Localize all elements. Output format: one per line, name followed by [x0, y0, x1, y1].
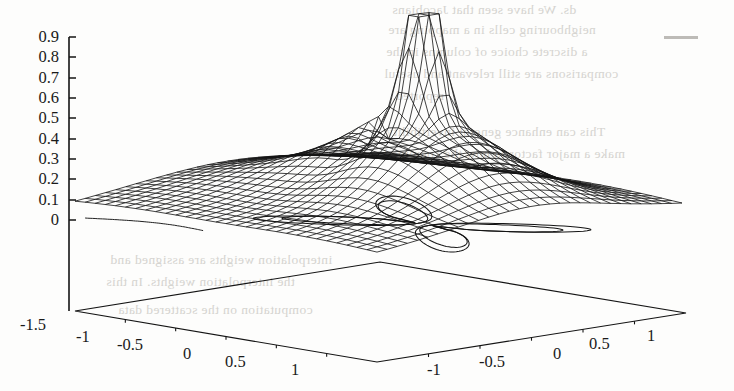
z-tick-label: 0.3	[13, 149, 59, 169]
y-tick-label: 0	[553, 344, 561, 364]
x-tick-label: 0	[183, 344, 191, 364]
z-tick-label: 0.2	[13, 169, 59, 189]
z-tick-label: 0.6	[13, 88, 59, 108]
y-tick-label: -1	[427, 360, 441, 380]
surface-mesh	[75, 13, 682, 253]
z-tick-label: 0.5	[13, 108, 59, 128]
z-tick-label: 0.1	[13, 190, 59, 210]
z-tick-label: 0.7	[13, 68, 59, 88]
x-tick-label: -1	[76, 327, 90, 347]
surface-plot-figure	[0, 0, 734, 391]
z-tick-label: 0	[13, 210, 59, 230]
z-tick-label: 0.8	[13, 47, 59, 67]
x-tick-label: 0.5	[225, 352, 246, 372]
dash-mark-annotation	[664, 36, 698, 39]
z-tick-label: 0.4	[13, 129, 59, 149]
y-tick-label: 1	[647, 326, 655, 346]
x-tick-label: -0.5	[117, 335, 143, 355]
z-tick-label: 0.9	[13, 27, 59, 47]
x-tick-label: -1.5	[20, 315, 46, 335]
x-tick-label: 1	[291, 360, 299, 380]
axes	[69, 37, 76, 311]
y-tick-label: -0.5	[479, 352, 505, 372]
y-tick-label: 0.5	[589, 334, 610, 354]
